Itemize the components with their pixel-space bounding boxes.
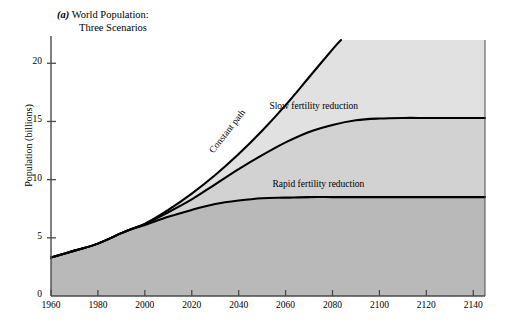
figure-panel: (a) World Population: Three Scenarios Po… [0, 0, 506, 323]
x-tick-label: 1960 [31, 300, 71, 310]
y-tick-label: 20 [20, 56, 42, 66]
x-tick-label: 2040 [219, 300, 259, 310]
y-tick-label: 5 [20, 231, 42, 241]
x-tick-label: 2120 [406, 300, 446, 310]
curve-label-2: Slow fertility reduction [269, 101, 358, 111]
curve-label-3: Rapid fertility reduction [273, 179, 365, 189]
x-tick-label: 2080 [313, 300, 353, 310]
x-tick-label: 2020 [172, 300, 212, 310]
x-tick-label: 2100 [359, 300, 399, 310]
y-tick-label: 0 [20, 289, 42, 299]
x-tick-label: 2140 [453, 300, 493, 310]
y-tick-label: 10 [20, 173, 42, 183]
chart-canvas [0, 0, 506, 323]
x-tick-label: 2000 [125, 300, 165, 310]
shaded-bands [51, 40, 485, 296]
x-tick-label: 1980 [78, 300, 118, 310]
y-tick-label: 15 [20, 114, 42, 124]
x-tick-label: 2060 [266, 300, 306, 310]
